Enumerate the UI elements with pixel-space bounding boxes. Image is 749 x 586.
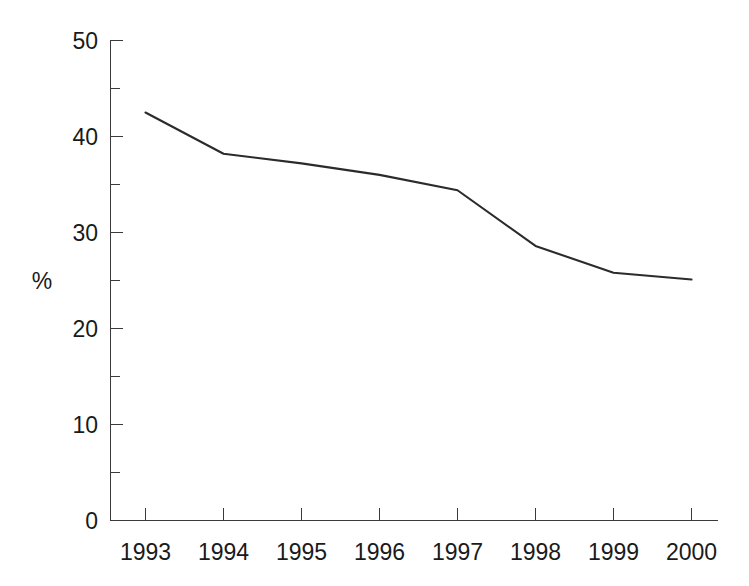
x-tick-label: 1998 — [510, 539, 561, 565]
x-tick-label: 1993 — [120, 539, 171, 565]
y-tick-label: 0 — [85, 508, 98, 534]
chart-canvas: 50 40 30 20 10 0 % 1993 1994 1995 1996 1… — [0, 0, 749, 586]
x-tick-label: 2000 — [666, 539, 717, 565]
y-tick-label: 30 — [72, 220, 98, 246]
x-tick-label: 1995 — [276, 539, 327, 565]
x-tick-label: 1994 — [198, 539, 249, 565]
x-tick-label: 1996 — [354, 539, 405, 565]
x-tick-label: 1997 — [432, 539, 483, 565]
y-tick-label: 10 — [72, 412, 98, 438]
y-tick-label: 50 — [72, 28, 98, 54]
y-tick-label: 20 — [72, 316, 98, 342]
line-chart: 50 40 30 20 10 0 % 1993 1994 1995 1996 1… — [0, 0, 749, 586]
y-tick-label: 40 — [72, 124, 98, 150]
x-tick-label: 1999 — [588, 539, 639, 565]
y-axis-title: % — [32, 268, 52, 294]
